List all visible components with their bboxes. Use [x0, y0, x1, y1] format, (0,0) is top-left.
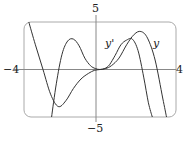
series-label-y: y [153, 38, 159, 49]
series-label-y-prime: y' [105, 38, 114, 49]
x-max-tick-label: 4 [176, 64, 183, 75]
x-min-tick-label: −4 [3, 64, 19, 75]
y-max-tick-label: 5 [92, 3, 99, 14]
y-min-tick-label: −5 [87, 123, 103, 134]
series-line-y-prime [52, 38, 153, 117]
